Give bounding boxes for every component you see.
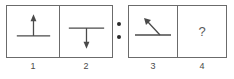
up-arrow-on-line-icon	[7, 6, 59, 57]
cell-label-3: 3	[143, 60, 163, 72]
analogy-cell-2[interactable]	[59, 6, 112, 57]
cell-label-4: 4	[192, 60, 212, 72]
cell-label-2: 2	[76, 60, 96, 72]
analogy-cell-3[interactable]	[129, 6, 177, 57]
analogy-cell-1[interactable]	[7, 6, 59, 57]
analogy-separator	[117, 22, 124, 42]
analogy-right-pair: ?	[128, 5, 227, 58]
separator-dot-bottom	[117, 35, 121, 39]
analogy-cell-4[interactable]: ?	[177, 6, 226, 57]
separator-dot-top	[117, 22, 121, 26]
diagonal-up-left-arrow-on-line-icon	[129, 6, 177, 57]
down-arrow-on-line-icon	[60, 6, 112, 57]
cell-label-1: 1	[23, 60, 43, 72]
analogy-left-pair	[6, 5, 113, 58]
analogy-puzzle: ? 1 2 3 4	[0, 0, 234, 79]
analogy-cell-labels: 1 2 3 4	[0, 60, 234, 79]
question-mark-symbol: ?	[178, 6, 226, 57]
